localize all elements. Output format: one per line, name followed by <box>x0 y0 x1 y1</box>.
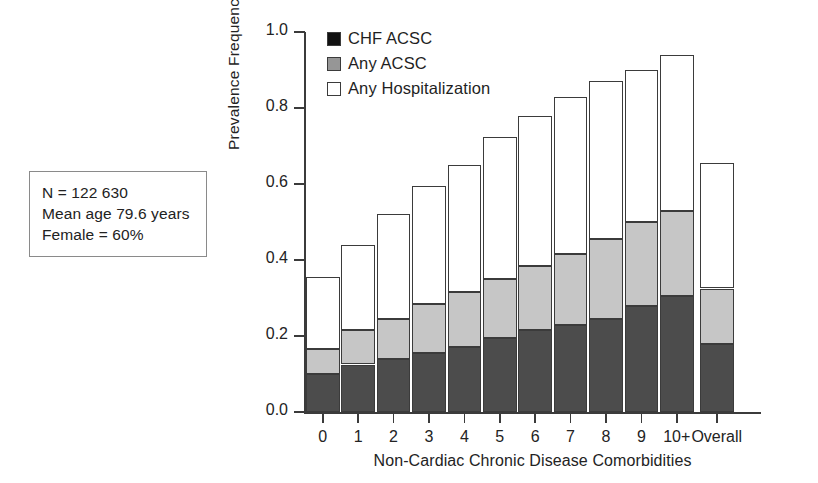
bar-segment-any-acsc[interactable] <box>306 349 340 374</box>
bar-segment-any-acsc[interactable] <box>483 279 517 338</box>
bar-segment-chf-acsc[interactable] <box>341 365 375 413</box>
bar-segment-any-acsc[interactable] <box>377 319 411 359</box>
black-square-icon <box>327 32 341 46</box>
y-tick <box>294 183 305 185</box>
legend-item: Any Hospitalization <box>327 76 490 101</box>
x-tick <box>676 412 678 423</box>
bar-segment-any-acsc[interactable] <box>554 254 588 324</box>
y-tick-label: 0.6 <box>244 173 288 191</box>
gray-square-icon <box>327 57 341 71</box>
bar-segment-any-hospitalization[interactable] <box>341 245 375 331</box>
y-tick <box>294 31 305 33</box>
bar-segment-any-hospitalization[interactable] <box>412 186 446 304</box>
bar-segment-chf-acsc[interactable] <box>554 325 588 412</box>
bar-segment-any-hospitalization[interactable] <box>306 277 340 349</box>
bar-segment-any-hospitalization[interactable] <box>589 81 623 239</box>
bar-stack[interactable] <box>589 32 623 412</box>
bar-segment-chf-acsc[interactable] <box>625 306 659 412</box>
bar-stack[interactable] <box>625 32 659 412</box>
bar-segment-any-hospitalization[interactable] <box>377 214 411 319</box>
y-tick <box>294 335 305 337</box>
bar-stack[interactable] <box>518 32 552 412</box>
y-tick <box>294 259 305 261</box>
y-tick <box>294 411 305 413</box>
bar-segment-any-acsc[interactable] <box>625 222 659 306</box>
x-tick <box>499 412 501 423</box>
bar-stack[interactable] <box>554 32 588 412</box>
bar-segment-any-acsc[interactable] <box>660 211 694 297</box>
y-tick-label: 0.8 <box>244 97 288 115</box>
bar-segment-any-acsc[interactable] <box>448 292 482 347</box>
y-tick-label: 1.0 <box>244 21 288 39</box>
x-tick <box>605 412 607 423</box>
bar-segment-chf-acsc[interactable] <box>448 347 482 412</box>
bar-segment-any-acsc[interactable] <box>518 266 552 331</box>
x-axis-spine <box>304 412 761 414</box>
bar-segment-chf-acsc[interactable] <box>518 330 552 412</box>
bar-segment-any-hospitalization[interactable] <box>700 163 734 288</box>
legend-item: CHF ACSC <box>327 26 490 51</box>
legend-item-label: Any Hospitalization <box>348 79 490 98</box>
x-tick <box>464 412 466 423</box>
x-axis-title: Non-Cardiac Chronic Disease Comorbiditie… <box>305 452 760 470</box>
x-tick <box>428 412 430 423</box>
y-tick-label: 0.4 <box>244 249 288 267</box>
bar-segment-any-acsc[interactable] <box>700 289 734 344</box>
stacked-bar-chart: Prevalence Frequency Non-Cardiac Chronic… <box>0 0 818 483</box>
x-tick <box>393 412 395 423</box>
bar-segment-chf-acsc[interactable] <box>660 296 694 412</box>
y-tick <box>294 107 305 109</box>
bar-segment-chf-acsc[interactable] <box>377 359 411 412</box>
bar-segment-chf-acsc[interactable] <box>589 319 623 412</box>
bar-stack[interactable] <box>660 32 694 412</box>
chart-legend: CHF ACSC Any ACSC Any Hospitalization <box>327 26 490 101</box>
y-tick-label: 0.2 <box>244 325 288 343</box>
bar-segment-any-hospitalization[interactable] <box>625 70 659 222</box>
bar-segment-any-acsc[interactable] <box>412 304 446 353</box>
x-tick <box>322 412 324 423</box>
x-tick <box>534 412 536 423</box>
legend-item-label: CHF ACSC <box>348 29 432 48</box>
bar-segment-any-hospitalization[interactable] <box>660 55 694 211</box>
x-tick <box>570 412 572 423</box>
x-tick-label: Overall <box>677 428 757 446</box>
bar-segment-chf-acsc[interactable] <box>306 374 340 412</box>
bar-stack[interactable] <box>700 32 734 412</box>
y-axis-title: Prevalence Frequency <box>225 128 243 150</box>
x-tick <box>716 412 718 423</box>
bar-segment-chf-acsc[interactable] <box>700 344 734 412</box>
bar-segment-any-hospitalization[interactable] <box>483 137 517 280</box>
bar-segment-chf-acsc[interactable] <box>483 338 517 412</box>
legend-item-label: Any ACSC <box>348 54 427 73</box>
bar-segment-any-hospitalization[interactable] <box>448 165 482 292</box>
bar-segment-any-hospitalization[interactable] <box>554 97 588 255</box>
y-tick-label: 0.0 <box>244 401 288 419</box>
legend-item: Any ACSC <box>327 51 490 76</box>
bar-segment-any-acsc[interactable] <box>589 239 623 319</box>
x-tick <box>357 412 359 423</box>
x-tick <box>641 412 643 423</box>
bar-segment-any-acsc[interactable] <box>341 330 375 364</box>
bar-segment-any-hospitalization[interactable] <box>518 116 552 266</box>
white-square-icon <box>327 82 341 96</box>
bar-segment-chf-acsc[interactable] <box>412 353 446 412</box>
